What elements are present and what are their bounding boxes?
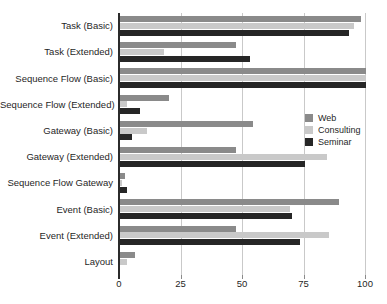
bar-consulting-1 <box>120 49 164 55</box>
bar-seminar-3 <box>120 108 140 114</box>
category-label: Task (Basic) <box>0 20 113 31</box>
bar-consulting-8 <box>120 232 329 238</box>
bar-web-1 <box>120 42 236 48</box>
legend-item-consulting: Consulting <box>305 125 361 135</box>
bar-consulting-2 <box>120 75 366 81</box>
legend-label-seminar: Seminar <box>318 137 352 147</box>
bar-web-8 <box>120 226 236 232</box>
legend-swatch-seminar <box>305 138 313 146</box>
bar-consulting-5 <box>120 154 327 160</box>
bar-consulting-9 <box>120 259 127 265</box>
category-label: Sequence Flow Gateway <box>0 177 113 188</box>
bar-seminar-0 <box>120 30 349 36</box>
bar-consulting-7 <box>120 206 290 212</box>
bar-consulting-3 <box>120 101 127 107</box>
bar-chart-figure: Web Consulting Seminar 0255075100Task (B… <box>0 0 387 304</box>
legend-swatch-web <box>305 114 313 122</box>
bar-seminar-6 <box>120 187 127 193</box>
bar-seminar-2 <box>120 82 366 88</box>
x-tick-label: 50 <box>227 278 257 289</box>
bar-seminar-4 <box>120 134 132 140</box>
category-label: Layout <box>0 256 113 267</box>
x-tick-label: 75 <box>289 278 319 289</box>
category-label: Task (Extended) <box>0 46 113 57</box>
bar-web-3 <box>120 95 169 101</box>
x-tick-label: 0 <box>104 278 134 289</box>
bar-web-4 <box>120 121 253 127</box>
category-label: Sequence Flow (Extended) <box>0 99 113 110</box>
bar-web-7 <box>120 199 339 205</box>
bar-seminar-1 <box>120 56 250 62</box>
bar-seminar-5 <box>120 161 305 167</box>
legend-label-consulting: Consulting <box>318 125 361 135</box>
bar-seminar-7 <box>120 213 292 219</box>
legend-swatch-consulting <box>305 126 313 134</box>
bar-web-2 <box>120 68 366 74</box>
chart-legend: Web Consulting Seminar <box>305 113 361 147</box>
category-label: Gateway (Extended) <box>0 151 113 162</box>
legend-label-web: Web <box>318 113 336 123</box>
category-label: Sequence Flow (Basic) <box>0 73 113 84</box>
bar-web-5 <box>120 147 236 153</box>
category-label: Gateway (Basic) <box>0 125 113 136</box>
category-label: Event (Basic) <box>0 204 113 215</box>
x-tick-label: 100 <box>350 278 380 289</box>
bar-consulting-4 <box>120 128 147 134</box>
bar-consulting-6 <box>120 180 122 186</box>
bar-web-9 <box>120 252 135 258</box>
legend-item-seminar: Seminar <box>305 137 361 147</box>
category-label: Event (Extended) <box>0 230 113 241</box>
x-tick-label: 25 <box>166 278 196 289</box>
gridline-100 <box>365 13 366 275</box>
bar-web-0 <box>120 16 361 22</box>
bar-consulting-0 <box>120 23 354 29</box>
bar-web-6 <box>120 173 125 179</box>
bar-seminar-8 <box>120 239 300 245</box>
legend-item-web: Web <box>305 113 361 123</box>
